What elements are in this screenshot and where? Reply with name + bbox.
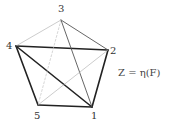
edge-1-2 [92, 50, 108, 107]
edge-2-5 [38, 50, 108, 105]
edge-3-4 [16, 20, 61, 46]
edge-5-1 [38, 105, 92, 107]
edge-4-2 [16, 46, 108, 50]
vertex-label-2: 2 [110, 45, 116, 56]
edge-3-5 [38, 20, 61, 105]
vertex-label-4: 4 [6, 40, 12, 51]
formula-label: Z = η(F) [118, 67, 160, 78]
vertex-label-1: 1 [91, 110, 97, 121]
vertex-label-5: 5 [34, 110, 40, 121]
graph-diagram: 12345 [0, 0, 176, 125]
vertex-label-3: 3 [58, 3, 64, 14]
edge-3-2 [61, 20, 108, 50]
